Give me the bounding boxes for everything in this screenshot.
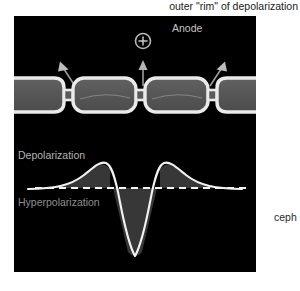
- anode-electrode-icon: [136, 34, 151, 49]
- waveform-fill: [35, 164, 235, 256]
- cell-segment: [217, 78, 256, 112]
- figure-root: outer "rim" of depolarization ceph: [0, 0, 300, 291]
- depolarization-label: Depolarization: [18, 149, 85, 161]
- anode-label: Anode: [172, 22, 202, 34]
- cell-chain: [14, 78, 256, 112]
- cell-segment: [14, 78, 64, 112]
- side-caption: ceph: [274, 211, 300, 224]
- panel-graphics: [14, 16, 256, 272]
- top-caption: outer "rim" of depolarization: [88, 0, 298, 13]
- illustration-panel: Anode Depolarization Hyperpolarization: [14, 16, 256, 272]
- cell-segment: [73, 78, 136, 112]
- hyperpolarization-label: Hyperpolarization: [18, 196, 100, 208]
- cell-segment: [145, 78, 208, 112]
